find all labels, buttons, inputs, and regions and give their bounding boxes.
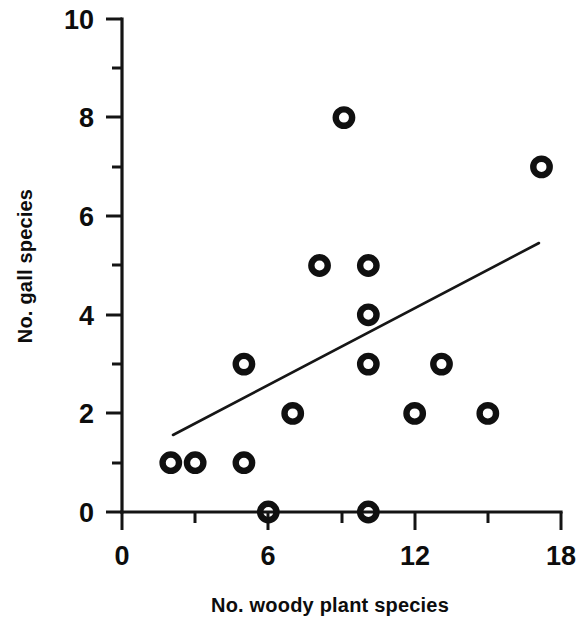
data-point [236, 356, 252, 372]
plot-canvas: 10 8 6 4 2 0 0 6 12 18 No. gall species … [0, 0, 579, 620]
data-point [360, 307, 376, 323]
x-tick-label-18: 18 [546, 541, 576, 571]
y-tick-label-4: 4 [79, 301, 94, 331]
x-tick-labels: 0 6 12 18 [114, 541, 576, 571]
y-tick-label-10: 10 [64, 5, 94, 35]
scatter-plot-figure: 10 8 6 4 2 0 0 6 12 18 No. gall species … [0, 0, 579, 620]
x-axis-title: No. woody plant species [211, 594, 449, 616]
y-tick-label-0: 0 [79, 498, 94, 528]
data-point [480, 405, 496, 421]
data-point-group [163, 109, 550, 520]
x-tick-label-6: 6 [260, 541, 275, 571]
y-tick-label-8: 8 [79, 103, 94, 133]
y-tick-label-6: 6 [79, 202, 94, 232]
y-tick-labels: 10 8 6 4 2 0 [64, 5, 94, 528]
data-point [533, 159, 549, 175]
data-point [360, 257, 376, 273]
data-point [433, 356, 449, 372]
data-point [360, 356, 376, 372]
data-point [311, 257, 327, 273]
data-point [406, 405, 422, 421]
y-tick-label-2: 2 [79, 399, 94, 429]
y-axis-ticks [106, 19, 122, 512]
data-point [163, 455, 179, 471]
x-tick-label-12: 12 [400, 541, 430, 571]
data-point [336, 109, 352, 125]
data-point [236, 455, 252, 471]
data-point [285, 405, 301, 421]
x-axis-ticks [122, 512, 561, 530]
data-point [187, 455, 203, 471]
x-tick-label-0: 0 [114, 541, 129, 571]
y-axis-title: No. gall species [14, 189, 36, 343]
